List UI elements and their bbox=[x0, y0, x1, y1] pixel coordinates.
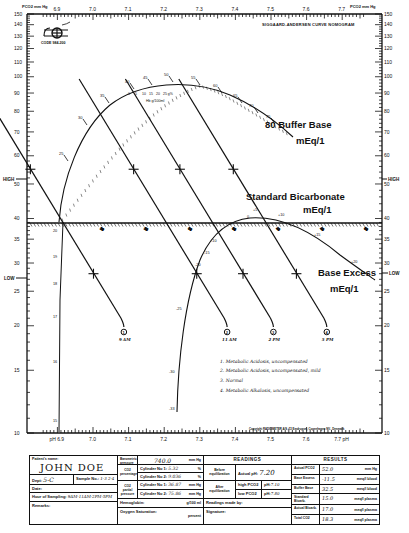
result-value-cell[interactable]: 15.0meq/l plasma bbox=[320, 494, 379, 504]
barometric-cell[interactable]: 740.0mm Hg bbox=[138, 456, 203, 464]
x-tick-label: 7.1 bbox=[125, 6, 132, 12]
sample-no-cell[interactable]: Sample No.: 1-3 2-4 bbox=[74, 475, 117, 484]
x-tick-label-bottom: 7.1 bbox=[125, 436, 132, 442]
svg-text:35: 35 bbox=[100, 93, 105, 98]
after-eq-label: After equilibration bbox=[204, 481, 236, 498]
cyl1-pp-cell[interactable]: Cylinder No 1: 36.87mm Hg bbox=[138, 481, 203, 490]
high-ph-label: pH: bbox=[264, 482, 271, 487]
cyl1-pct-cell[interactable]: Cylinder No 1: 5.32% bbox=[138, 465, 203, 473]
result-unit: meq/l blood bbox=[357, 477, 377, 481]
actual-ph-cell[interactable]: Actual pH: 7.20 bbox=[236, 465, 291, 480]
result-row[interactable]: Actual Bicarb. 17.0meq/l plasma bbox=[292, 505, 379, 515]
cyl2-pp-unit: mm Hg bbox=[189, 492, 201, 496]
actual-ph-label: Actual pH: bbox=[238, 471, 258, 476]
cyl2-pp-cell[interactable]: Cylinder No 2: 75.86mm Hg bbox=[138, 490, 203, 498]
result-unit: meq/l plasma bbox=[354, 518, 377, 522]
result-value-cell[interactable]: 52.0mm Hg bbox=[320, 465, 379, 474]
readings-by-cell[interactable]: Readings made by: bbox=[204, 499, 291, 508]
result-label: Base Excess bbox=[292, 475, 320, 484]
svg-text:-15: -15 bbox=[204, 251, 210, 255]
high-ph-cell[interactable]: pH:7.10 bbox=[262, 481, 291, 489]
result-value: 18.3 bbox=[322, 516, 333, 522]
y-tick-label-right: 110 bbox=[384, 59, 392, 65]
cyl1-pct-unit: % bbox=[198, 467, 201, 471]
y-tick-label-left: 30 bbox=[14, 260, 20, 266]
low-ph-cell[interactable]: pH:7.80 bbox=[262, 490, 291, 498]
y-tick-label-left: 100 bbox=[14, 73, 23, 79]
cyl1-pp-unit: mm Hg bbox=[189, 483, 201, 487]
result-unit: meq/l blood bbox=[357, 487, 377, 491]
x-tick-labels-bottom: pH 6.97.07.17.27.37.47.57.67.7 pH bbox=[49, 436, 349, 442]
y-tick-label-left: 150 bbox=[14, 11, 23, 17]
svg-text:16: 16 bbox=[53, 360, 57, 364]
y-tick-label-right: 60 bbox=[384, 152, 390, 158]
x-tick-label: 7.0 bbox=[89, 6, 96, 12]
x-tick-label-bottom: 7.7 pH bbox=[334, 436, 349, 442]
legend-item-1: 1. Metabolic Acidosis, uncompensated bbox=[220, 359, 308, 364]
sample-no-label: Sample No.: bbox=[76, 476, 99, 481]
patient-name-value: JOHN DOE bbox=[40, 462, 115, 473]
cyl1-pp-label: Cylinder No 1: bbox=[140, 482, 167, 487]
svg-text:25 g%: 25 g% bbox=[163, 92, 173, 96]
svg-text:50: 50 bbox=[364, 226, 369, 231]
result-value: 52.0 bbox=[322, 466, 333, 472]
low-pco2-label: low PCO2 bbox=[236, 490, 262, 498]
svg-text:18: 18 bbox=[53, 282, 57, 286]
y-tick-label-left: 140 bbox=[14, 21, 23, 27]
svg-text:65: 65 bbox=[233, 93, 238, 98]
result-row[interactable]: Actual PCO2 52.0mm Hg bbox=[292, 465, 379, 475]
low-ph-label: pH: bbox=[264, 491, 271, 496]
y-tick-label-right: 130 bbox=[384, 33, 393, 39]
hour-value: 9AM-11AM-2PM-5PM bbox=[68, 494, 112, 499]
hemoglobin-cell[interactable]: Hemoglobin:g/100 ml bbox=[118, 499, 203, 508]
result-value-cell[interactable]: 17.0meq/l plasma bbox=[320, 505, 379, 514]
result-row[interactable]: Standard Bicarb. 15.0meq/l plasma bbox=[292, 494, 379, 505]
x-tick-label: 6.9 bbox=[53, 6, 60, 12]
svg-text:17: 17 bbox=[53, 315, 57, 319]
result-unit: meq/l plasma bbox=[354, 508, 377, 512]
result-value-cell[interactable]: 18.3meq/l plasma bbox=[320, 515, 379, 524]
x-tick-label: 7.2 bbox=[160, 6, 167, 12]
result-value-cell[interactable]: -11.5meq/l blood bbox=[320, 475, 379, 484]
dept-cell[interactable]: Dept: 5-C bbox=[30, 475, 74, 484]
result-row[interactable]: Base Excess -11.5meq/l blood bbox=[292, 475, 379, 485]
cyl2-pct-cell[interactable]: Cylinder No 2: 9.036% bbox=[138, 473, 203, 480]
hemoglobin-unit: g/100 ml bbox=[187, 501, 201, 505]
result-unit: meq/l plasma bbox=[354, 497, 377, 501]
oxygen-label: Oxygen Saturation: bbox=[120, 509, 157, 514]
y-tick-label-left: 110 bbox=[14, 59, 22, 65]
result-row[interactable]: Buffer Base 32.5meq/l blood bbox=[292, 485, 379, 495]
svg-text:+15: +15 bbox=[314, 233, 320, 237]
remarks-cell[interactable]: Remarks: bbox=[30, 502, 117, 524]
high-ph-value: 7.10 bbox=[271, 482, 280, 487]
sample-no-value: 1-3 2-4 bbox=[100, 476, 114, 481]
readings-by-label: Readings made by: bbox=[206, 500, 243, 505]
left-scale-line bbox=[59, 222, 63, 432]
x-tick-label-bottom: 7.0 bbox=[89, 436, 96, 442]
y-tick-label-right: 70 bbox=[384, 129, 390, 135]
patient-name-label: Patient's name: bbox=[32, 457, 115, 461]
patient-name-cell[interactable]: Patient's name: JOHN DOE bbox=[30, 456, 117, 475]
y-tick-label-left: 15 bbox=[14, 367, 20, 373]
svg-text:25: 25 bbox=[144, 226, 149, 231]
date-cell[interactable]: Date: bbox=[30, 485, 117, 493]
result-value-cell[interactable]: 32.5meq/l blood bbox=[320, 485, 379, 494]
result-label: Actual PCO2 bbox=[292, 465, 320, 474]
signature-cell[interactable]: Signature: bbox=[204, 508, 291, 524]
radiometer-logo-icon bbox=[44, 22, 70, 38]
standard-bicarbonate-label: Standard Bicarbonate bbox=[246, 191, 345, 202]
nomogram-chart: 20253035404550 6.97.07.17.27.37.47.57.67… bbox=[0, 0, 409, 445]
oxygen-cell[interactable]: Oxygen Saturation:percent bbox=[118, 508, 203, 524]
barometric-unit: mm Hg bbox=[189, 458, 201, 462]
co2-pct-label: CO2 percentage bbox=[118, 465, 138, 480]
patient-form: Patient's name: JOHN DOE Dept: 5-C Sampl… bbox=[29, 455, 380, 525]
svg-text:35: 35 bbox=[232, 226, 237, 231]
y-tick-label-right: 10 bbox=[384, 430, 390, 436]
result-row[interactable]: Total CO2 18.3meq/l plasma bbox=[292, 515, 379, 524]
y-tick-label-right: 40 bbox=[384, 215, 390, 221]
logo-code: CODE 984-200 bbox=[41, 41, 66, 45]
cyl2-pct-unit: % bbox=[198, 475, 201, 479]
hour-cell[interactable]: Hour of Sampling: 9AM-11AM-2PM-5PM bbox=[30, 493, 117, 502]
high-marker-right: HIGH bbox=[388, 177, 399, 182]
y-axis-label-left: PCO2 mm Hg bbox=[22, 4, 48, 9]
